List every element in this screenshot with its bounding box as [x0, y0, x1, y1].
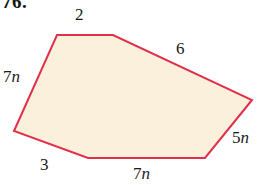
side-label-upper-right-coefficient: 6 — [176, 39, 185, 58]
side-label-left: 7n — [3, 68, 20, 85]
side-label-bottom-coefficient: 7 — [133, 164, 142, 183]
side-label-left-coefficient: 7 — [3, 67, 12, 86]
side-label-bottom-left-coefficient: 3 — [40, 155, 49, 174]
side-label-bottom: 7n — [133, 165, 150, 182]
figure-page: 76. 2 6 7n 5n 3 7n — [0, 0, 263, 185]
hexagon-shape — [14, 35, 252, 158]
side-label-lower-right-variable: n — [241, 128, 250, 147]
side-label-bottom-variable: n — [142, 164, 151, 183]
side-label-lower-right: 5n — [232, 129, 249, 146]
side-label-left-variable: n — [12, 67, 21, 86]
side-label-upper-right: 6 — [176, 40, 185, 57]
side-label-lower-right-coefficient: 5 — [232, 128, 241, 147]
side-label-top: 2 — [75, 6, 84, 23]
side-label-bottom-left: 3 — [40, 156, 49, 173]
side-label-top-coefficient: 2 — [75, 5, 84, 24]
